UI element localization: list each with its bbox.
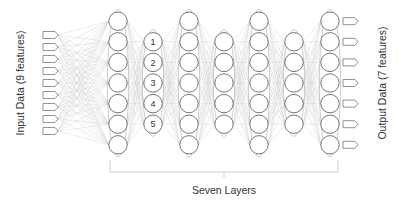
output-label: Output Data (7 features) [376,26,388,139]
neuron-node [321,115,339,133]
neuron-node [109,94,127,112]
neuron-node [250,33,268,51]
neuron-node [180,12,198,30]
neuron-number-label: 5 [150,119,155,129]
neuron-number-label: 2 [150,58,155,68]
neuron-node [180,74,198,92]
neuron-node [180,53,198,71]
neuron-node [109,74,127,92]
input-feature-arrow [43,32,58,39]
output-feature-arrow [343,38,358,45]
neuron-node [109,33,127,51]
output-feature-arrow [343,100,358,107]
input-feature-arrow [43,104,58,111]
neuron-node [285,74,303,92]
neuron-node [109,53,127,71]
input-feature-arrow [43,92,58,99]
input-label: Input Data (9 features) [14,30,26,135]
output-arrows [343,18,358,149]
neuron-node [321,94,339,112]
neuron-number-label: 1 [150,37,155,47]
input-feature-arrow [43,116,58,123]
neuron-node [321,74,339,92]
neuron-number-label: 3 [150,78,155,88]
neuron-node [215,94,233,112]
layers-bracket [110,160,338,178]
output-feature-arrow [343,121,358,128]
neuron-node [321,33,339,51]
neuron-node [250,12,268,30]
neuron-node [321,53,339,71]
neuron-node [215,74,233,92]
neuron-node [250,115,268,133]
neuron-node [180,115,198,133]
neuron-node [250,53,268,71]
neuron-node [250,94,268,112]
input-arrows [43,32,58,135]
input-feature-arrow [43,80,58,87]
neuron-node [180,94,198,112]
neuron-node [109,136,127,154]
input-feature-arrow [43,56,58,63]
neuron-node [109,12,127,30]
neural-network-diagram: 12345 Input Data (9 features) Output Dat… [0,0,406,211]
neuron-node [180,136,198,154]
neuron-node [215,53,233,71]
input-feature-arrow [43,68,58,75]
neuron-number-label: 4 [150,99,155,109]
neuron-node [109,115,127,133]
output-feature-arrow [343,80,358,87]
bracket-label: Seven Layers [192,184,256,196]
neuron-node [250,74,268,92]
neuron-node [285,33,303,51]
neuron-node [215,33,233,51]
neuron-node [285,94,303,112]
neuron-node [285,53,303,71]
input-feature-arrow [43,128,58,135]
output-feature-arrow [343,141,358,148]
neuron-node [250,136,268,154]
output-feature-arrow [343,18,358,25]
neuron-node [321,136,339,154]
output-feature-arrow [343,59,358,66]
neuron-node [180,33,198,51]
neuron-node [215,115,233,133]
input-feature-arrow [43,44,58,51]
neuron-node [285,115,303,133]
neuron-node [321,12,339,30]
